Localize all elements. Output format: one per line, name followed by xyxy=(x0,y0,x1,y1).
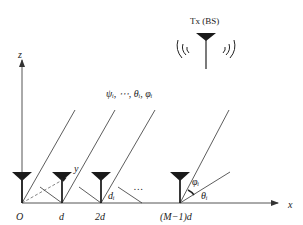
z-axis-label: z xyxy=(17,49,22,60)
delay-label: dᵢ xyxy=(108,190,115,201)
position-label-d: d xyxy=(59,211,65,222)
incident-rays xyxy=(22,110,229,203)
wavefront-lines xyxy=(40,187,142,203)
ellipsis-label: … xyxy=(134,181,143,192)
transmitter-label: Tx (BS) xyxy=(190,16,219,26)
transmitter-antenna-icon xyxy=(177,33,235,69)
ray-parameters-label: ψᵢ, ⋯, θᵢ, φᵢ xyxy=(106,88,153,99)
elevation-angle-arc xyxy=(188,190,194,195)
elevation-angle-label: φᵢ xyxy=(192,176,200,187)
array-geometry-diagram: z x y Tx (BS) ψᵢ, ⋯, θᵢ, φᵢ xyxy=(0,0,303,225)
position-label-origin: O xyxy=(16,211,23,222)
azimuth-angle-label: θᵢ xyxy=(201,190,208,201)
position-label-2d: 2d xyxy=(95,211,106,222)
array-antenna-icon xyxy=(12,172,32,203)
position-label-last: (M−1)d xyxy=(160,211,193,223)
y-axis-label: y xyxy=(73,163,79,174)
x-axis-label: x xyxy=(287,199,293,210)
y-axis xyxy=(22,178,66,203)
